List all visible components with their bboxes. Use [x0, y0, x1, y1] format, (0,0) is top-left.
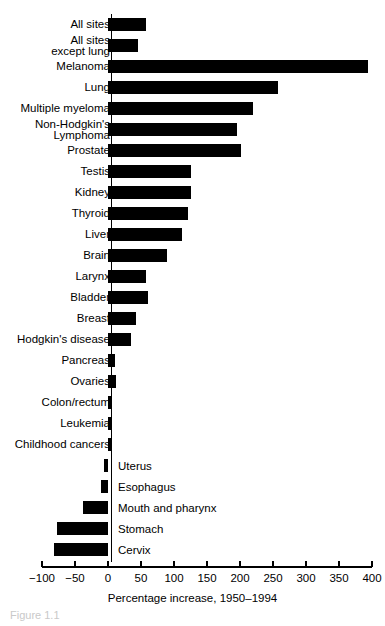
bar-row-label: Breast — [2, 308, 110, 329]
bar — [108, 228, 182, 241]
axis-tick-label: 50 — [135, 572, 148, 584]
axis-tick-label: 250 — [263, 572, 282, 584]
axis-tick — [371, 561, 373, 567]
bar-row: Uterus — [0, 455, 385, 476]
bar-row-label: Childhood cancers — [2, 434, 110, 455]
bar — [104, 459, 108, 472]
bar-row-label: All sites except lung — [2, 35, 110, 56]
bar-row: Lung — [0, 77, 385, 98]
bar-row-label: Lung — [2, 77, 110, 98]
bar — [108, 207, 188, 220]
bar-row: Cervix — [0, 539, 385, 560]
axis-tick-label: 0 — [105, 572, 111, 584]
axis-tick-label: 100 — [164, 572, 183, 584]
bar — [108, 60, 368, 73]
axis-tick-label: −100 — [29, 572, 55, 584]
bar-row: Non-Hodgkin's Lymphoma — [0, 119, 385, 140]
bar-row: Pancreas — [0, 350, 385, 371]
x-axis-title: Percentage increase, 1950–1994 — [0, 592, 385, 604]
bar — [108, 165, 191, 178]
bar-row: Ovaries — [0, 371, 385, 392]
bar — [108, 81, 278, 94]
bar-row-label: Colon/rectum — [2, 392, 110, 413]
bar-row-label: Multiple myeloma — [2, 98, 110, 119]
bar-row-label: Thyroid — [2, 203, 110, 224]
bar — [108, 39, 138, 52]
axis-tick — [206, 561, 208, 567]
bar-row: Childhood cancers — [0, 434, 385, 455]
bar-row-label: Liver — [2, 224, 110, 245]
bar — [108, 333, 131, 346]
bar-row-label: Kidney — [2, 182, 110, 203]
bar-row-label: Melanoma — [2, 56, 110, 77]
bar-row-label: All sites — [2, 14, 110, 35]
bar-row: Melanoma — [0, 56, 385, 77]
bar-row: Larynx — [0, 266, 385, 287]
bar-row: Kidney — [0, 182, 385, 203]
bar — [108, 270, 146, 283]
bar — [108, 144, 241, 157]
bar-row-label: Ovaries — [2, 371, 110, 392]
bar-row: Stomach — [0, 518, 385, 539]
bar-row-label: Cervix — [118, 539, 151, 560]
axis-tick — [272, 561, 274, 567]
axis-tick — [305, 561, 307, 567]
axis-tick — [107, 561, 109, 567]
bar-row-label: Testis — [2, 161, 110, 182]
bar — [54, 543, 108, 556]
axis-tick — [41, 561, 43, 567]
axis-tick-label: 200 — [230, 572, 249, 584]
bar — [108, 102, 253, 115]
bar-row-label: Pancreas — [2, 350, 110, 371]
bar-row: Leukemia — [0, 413, 385, 434]
bar-row-label: Prostate — [2, 140, 110, 161]
bar — [108, 291, 148, 304]
bar — [108, 312, 136, 325]
axis-tick — [173, 561, 175, 567]
bar-row: All sites except lung — [0, 35, 385, 56]
bar — [101, 480, 108, 493]
bar-row-label: Stomach — [118, 518, 163, 539]
bar — [108, 123, 237, 136]
bar-row: All sites — [0, 14, 385, 35]
figure-container: All sitesAll sites except lungMelanomaLu… — [0, 0, 385, 626]
axis-tick-label: 400 — [362, 572, 381, 584]
bar-row: Esophagus — [0, 476, 385, 497]
chart-plot-area: All sitesAll sites except lungMelanomaLu… — [0, 0, 385, 566]
bar — [83, 501, 108, 514]
axis-tick-label: 300 — [296, 572, 315, 584]
bar-row: Breast — [0, 308, 385, 329]
bar-row-label: Leukemia — [2, 413, 110, 434]
bar-row: Hodgkin's disease — [0, 329, 385, 350]
bar — [108, 249, 167, 262]
bar-row: Bladder — [0, 287, 385, 308]
bar-row-label: Larynx — [2, 266, 110, 287]
axis-tick — [74, 561, 76, 567]
bar-row: Liver — [0, 224, 385, 245]
axis-tick-label: 150 — [197, 572, 216, 584]
bar-row: Thyroid — [0, 203, 385, 224]
bar-row: Brain — [0, 245, 385, 266]
bar-row-label: Esophagus — [118, 476, 176, 497]
bar — [57, 522, 108, 535]
axis-tick — [239, 561, 241, 567]
bar-row: Testis — [0, 161, 385, 182]
bar-row-label: Bladder — [2, 287, 110, 308]
bar-row: Mouth and pharynx — [0, 497, 385, 518]
bar — [108, 18, 146, 31]
bar-row-label: Non-Hodgkin's Lymphoma — [2, 119, 110, 140]
axis-tick-label: 350 — [329, 572, 348, 584]
bar-row: Multiple myeloma — [0, 98, 385, 119]
bar-row: Colon/rectum — [0, 392, 385, 413]
axis-tick-label: −50 — [65, 572, 85, 584]
bar-row-label: Mouth and pharynx — [118, 497, 216, 518]
bar — [108, 186, 191, 199]
figure-caption: Figure 1.1 — [10, 609, 60, 621]
axis-tick — [338, 561, 340, 567]
bar-row-label: Brain — [2, 245, 110, 266]
bar-row-label: Uterus — [118, 455, 152, 476]
bar-row-label: Hodgkin's disease — [2, 329, 110, 350]
bar-row: Prostate — [0, 140, 385, 161]
axis-tick — [140, 561, 142, 567]
